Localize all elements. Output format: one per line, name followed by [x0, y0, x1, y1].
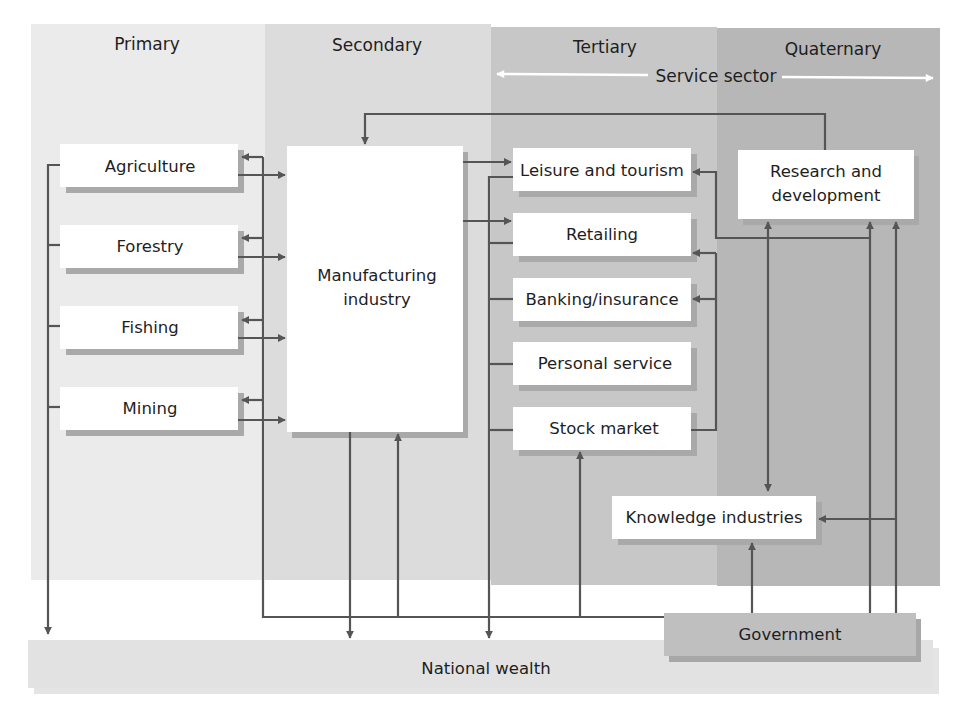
fishing-label: Fishing	[121, 318, 178, 337]
rd-label-line2: development	[772, 186, 881, 205]
economic-sectors-diagram: Primary Secondary Tertiary Quaternary Se…	[0, 0, 959, 714]
box-forestry: Forestry	[60, 225, 244, 274]
knowledge-label: Knowledge industries	[625, 508, 802, 527]
government-label: Government	[739, 625, 842, 644]
box-retailing: Retailing	[513, 213, 697, 262]
mining-label: Mining	[123, 399, 178, 418]
box-knowledge-industries: Knowledge industries	[612, 496, 822, 545]
service-arrow-right	[782, 77, 933, 78]
banking-label: Banking/insurance	[525, 290, 678, 309]
national-wealth-label: National wealth	[421, 659, 550, 678]
box-fishing: Fishing	[60, 306, 244, 355]
header-tertiary: Tertiary	[572, 37, 637, 57]
header-quaternary: Quaternary	[785, 39, 882, 59]
box-banking-insurance: Banking/insurance	[513, 278, 697, 327]
agriculture-label: Agriculture	[105, 157, 196, 176]
service-sector-label: Service sector	[656, 66, 777, 86]
header-secondary: Secondary	[332, 35, 422, 55]
stock-label: Stock market	[549, 419, 659, 438]
leisure-label: Leisure and tourism	[520, 161, 684, 180]
box-mining: Mining	[60, 387, 244, 436]
box-manufacturing: Manufacturing industry	[287, 146, 468, 438]
personal-label: Personal service	[538, 354, 673, 373]
service-arrow-left	[497, 74, 648, 75]
secondary-boxes: Manufacturing industry	[287, 146, 468, 438]
quaternary-boxes: Research and development	[738, 150, 919, 225]
retailing-label: Retailing	[566, 225, 638, 244]
box-personal-service: Personal service	[513, 342, 697, 391]
rd-label-line1: Research and	[770, 162, 882, 181]
government-box: Government	[664, 613, 921, 662]
box-leisure-tourism: Leisure and tourism	[513, 148, 697, 197]
header-primary: Primary	[114, 34, 180, 54]
manufacturing-label-line1: Manufacturing	[317, 266, 436, 285]
primary-band	[31, 24, 265, 580]
manufacturing-label-line2: industry	[343, 290, 411, 309]
box-stock-market: Stock market	[513, 407, 697, 456]
box-agriculture: Agriculture	[60, 144, 244, 193]
forestry-label: Forestry	[116, 237, 183, 256]
box-research-development: Research and development	[738, 150, 919, 225]
